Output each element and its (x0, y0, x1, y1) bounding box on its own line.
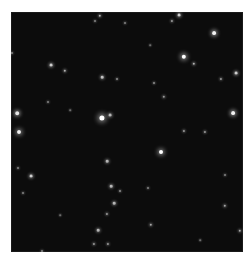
star (116, 78, 118, 80)
star (212, 31, 216, 35)
star (231, 111, 235, 115)
star (224, 174, 226, 176)
star (97, 229, 100, 232)
star (199, 239, 201, 241)
star (69, 109, 71, 111)
star (15, 111, 19, 115)
star (239, 230, 241, 232)
star-field-image (11, 12, 243, 252)
star (178, 14, 181, 17)
star (182, 55, 186, 59)
star (159, 150, 163, 154)
star (113, 202, 116, 205)
star (149, 44, 151, 46)
star (106, 160, 109, 163)
star (41, 250, 43, 252)
star (64, 70, 66, 72)
star (93, 243, 95, 245)
star (163, 96, 165, 98)
star (94, 20, 96, 22)
star (235, 72, 238, 75)
star (59, 214, 61, 216)
star (101, 76, 104, 79)
star (17, 130, 21, 134)
star (106, 213, 108, 215)
star (17, 167, 19, 169)
star (107, 243, 109, 245)
star (183, 130, 185, 132)
star (99, 15, 101, 17)
star (204, 131, 206, 133)
star (47, 101, 49, 103)
star (99, 115, 104, 120)
star (30, 175, 33, 178)
star (11, 52, 13, 54)
star (147, 187, 149, 189)
star (124, 22, 126, 24)
star (22, 192, 24, 194)
star (224, 205, 226, 207)
star (153, 82, 155, 84)
star (110, 185, 113, 188)
star (171, 20, 173, 22)
star (50, 64, 53, 67)
star (193, 63, 195, 65)
star (150, 224, 152, 226)
star (220, 78, 222, 80)
star (119, 190, 121, 192)
star (109, 114, 112, 117)
